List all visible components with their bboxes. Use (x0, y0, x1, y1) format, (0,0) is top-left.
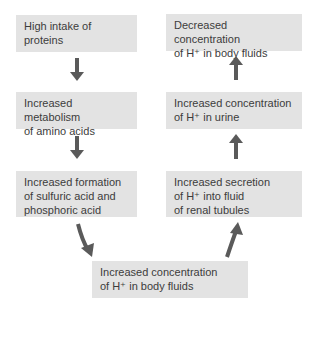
arrow-down-icon (70, 136, 84, 159)
curved-arrow-down-icon (78, 224, 94, 257)
arrow-up-icon (229, 134, 243, 159)
flow-arrows (0, 0, 314, 343)
arrow-up-icon (229, 56, 243, 80)
curved-arrow-up-icon (227, 222, 243, 257)
arrow-down-icon (70, 58, 84, 81)
